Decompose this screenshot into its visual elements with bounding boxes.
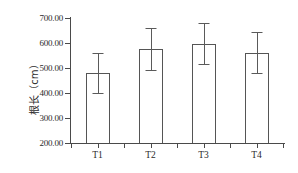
y-axis-tick-label: 500.00 <box>39 63 63 73</box>
x-axis-tick <box>151 144 152 148</box>
x-axis-tick <box>71 144 72 148</box>
x-axis-tick <box>177 144 178 148</box>
error-bar-cap-top <box>145 28 156 29</box>
error-bar-stem <box>151 28 152 70</box>
x-axis-tick <box>283 144 284 148</box>
error-bar-cap-bottom <box>198 64 209 65</box>
y-axis-tick-label: 700.00 <box>39 13 63 23</box>
error-bar-cap-bottom <box>145 70 156 71</box>
y-axis-tick <box>65 18 70 19</box>
x-axis-tick <box>204 144 205 148</box>
error-bar-cap-bottom <box>251 73 262 74</box>
y-axis-tick-label: 200.00 <box>39 138 63 148</box>
x-axis-tick <box>124 144 125 148</box>
x-axis-tick <box>257 144 258 148</box>
x-axis-tick <box>98 144 99 148</box>
error-bar-cap-bottom <box>92 93 103 94</box>
error-bar-cap-top <box>251 32 262 33</box>
error-bar-cap-top <box>92 53 103 54</box>
y-axis-tick <box>65 118 70 119</box>
y-axis-tick <box>65 68 70 69</box>
error-bar-stem <box>257 32 258 73</box>
y-axis-tick-label: 400.00 <box>39 88 63 98</box>
x-axis-tick-label: T4 <box>251 150 262 160</box>
x-axis-tick-label: T1 <box>92 150 103 160</box>
y-axis-title-container: 根长（cm） <box>0 0 26 173</box>
y-axis-tick <box>65 43 70 44</box>
bar-chart: 根长（cm） 700.00600.00500.00400.00300.00200… <box>0 0 298 173</box>
x-axis-tick-label: T2 <box>145 150 156 160</box>
plot-area <box>71 18 283 143</box>
x-axis-tick-label: T3 <box>198 150 209 160</box>
error-bar-stem <box>98 53 99 93</box>
y-axis-tick <box>65 143 70 144</box>
y-axis-tick <box>65 93 70 94</box>
error-bar-cap-top <box>198 23 209 24</box>
y-axis-tick-label: 300.00 <box>39 113 63 123</box>
y-axis-tick-label: 600.00 <box>39 38 63 48</box>
error-bar-stem <box>204 23 205 64</box>
x-axis-tick <box>230 144 231 148</box>
